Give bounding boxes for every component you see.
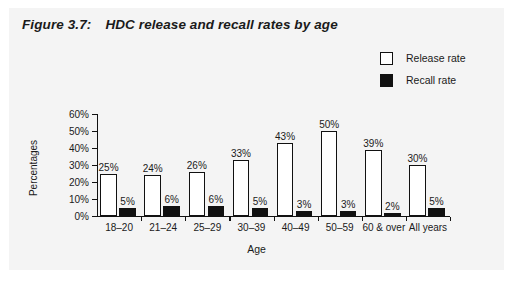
bar-group: 25%5% [97, 114, 141, 216]
bar-value-label: 5% [120, 196, 134, 207]
figure-page: Figure 3.7:HDC release and recall rates … [0, 0, 513, 283]
legend-label-recall-rate: Recall rate [406, 74, 456, 86]
x-axis-ticks: 18–2021–2425–2930–3940–4950–5960 & overA… [97, 217, 450, 243]
y-axis-tick-label: 10% [69, 194, 89, 205]
bar-value-label: 43% [275, 131, 295, 142]
bar-recall-rate[interactable]: 3% [296, 211, 313, 216]
bar-value-label: 33% [231, 148, 251, 159]
x-axis-tick-mark [406, 217, 407, 221]
bar-group: 39%2% [362, 114, 406, 216]
y-axis-tick-label: 40% [69, 143, 89, 154]
bar-group: 43%3% [274, 114, 318, 216]
bar-value-label: 30% [407, 153, 427, 164]
bar-value-label: 39% [363, 138, 383, 149]
y-axis-title: Percentages [28, 128, 39, 208]
figure-number: Figure 3.7: [22, 17, 91, 32]
legend-swatch-recall-rate-icon [380, 74, 393, 87]
x-axis-tick-mark [362, 217, 363, 221]
bar-group: 30%5% [406, 114, 450, 216]
bar-release-rate[interactable]: 43% [277, 143, 294, 216]
x-axis-tick-label: 60 & over [362, 222, 405, 233]
figure-title: Figure 3.7:HDC release and recall rates … [22, 17, 338, 32]
bar-value-label: 6% [164, 194, 178, 205]
y-axis-tick-label: 0% [75, 211, 89, 222]
bar-value-label: 50% [319, 119, 339, 130]
y-axis-tick-label: 20% [69, 177, 89, 188]
bar-value-label: 6% [209, 194, 223, 205]
bar-recall-rate[interactable]: 6% [163, 206, 180, 216]
bar-group: 33%5% [229, 114, 273, 216]
x-axis-tick-mark [450, 217, 451, 221]
x-axis-title: Age [0, 243, 513, 255]
y-axis-tick-label: 30% [69, 160, 89, 171]
x-axis-tick-label: All years [409, 222, 447, 233]
bar-release-rate[interactable]: 24% [144, 175, 161, 216]
plot-area: 0%10%20%30%40%50%60%25%5%24%6%26%6%33%5%… [97, 114, 450, 216]
bar-value-label: 24% [143, 163, 163, 174]
x-axis-tick-label: 40–49 [282, 222, 310, 233]
legend-swatch-release-rate-icon [380, 52, 393, 65]
bar-release-rate[interactable]: 26% [189, 172, 206, 216]
bar-recall-rate[interactable]: 6% [208, 206, 225, 216]
x-axis-tick-mark [185, 217, 186, 221]
bar-recall-rate[interactable]: 5% [119, 208, 136, 217]
bar-recall-rate[interactable]: 5% [252, 208, 269, 217]
x-axis-tick-label: 25–29 [193, 222, 221, 233]
x-axis-tick-label: 30–39 [238, 222, 266, 233]
chart-legend: Release rate Recall rate [380, 47, 466, 91]
bar-release-rate[interactable]: 25% [100, 174, 117, 217]
x-axis-tick-label: 50–59 [326, 222, 354, 233]
figure-title-text: HDC release and recall rates by age [105, 17, 337, 32]
y-axis-tick-label: 50% [69, 126, 89, 137]
bar-value-label: 5% [429, 196, 443, 207]
y-axis-tick-label: 60% [69, 109, 89, 120]
bar-group: 26%6% [185, 114, 229, 216]
bar-release-rate[interactable]: 39% [365, 150, 382, 216]
bar-value-label: 5% [253, 196, 267, 207]
legend-item-recall-rate: Recall rate [380, 69, 466, 91]
bar-value-label: 2% [385, 201, 399, 212]
legend-item-release-rate: Release rate [380, 47, 466, 69]
bar-recall-rate[interactable]: 2% [384, 213, 401, 216]
bar-recall-rate[interactable]: 3% [340, 211, 357, 216]
x-axis-tick-mark [141, 217, 142, 221]
bar-value-label: 25% [99, 162, 119, 173]
x-axis-tick-mark [318, 217, 319, 221]
bar-group: 50%3% [318, 114, 362, 216]
legend-label-release-rate: Release rate [406, 52, 466, 64]
bar-recall-rate[interactable]: 5% [428, 208, 445, 217]
bar-release-rate[interactable]: 50% [321, 131, 338, 216]
bar-value-label: 26% [187, 160, 207, 171]
bar-value-label: 3% [341, 199, 355, 210]
x-axis-tick-label: 21–24 [149, 222, 177, 233]
x-axis-tick-mark [274, 217, 275, 221]
bar-value-label: 3% [297, 199, 311, 210]
bar-group: 24%6% [141, 114, 185, 216]
bar-release-rate[interactable]: 33% [233, 160, 250, 216]
bar-release-rate[interactable]: 30% [409, 165, 426, 216]
x-axis-tick-mark [229, 217, 230, 221]
x-axis-tick-label: 18–20 [105, 222, 133, 233]
